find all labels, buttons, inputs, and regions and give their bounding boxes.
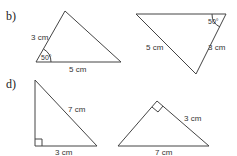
triangles-diagram: b) 3 cm 5 cm 50° 5 cm 3 cm 50° d) 7 cm 3… [0,0,237,156]
side-label-3cm: 3 cm [208,43,226,52]
side-label-5cm: 5 cm [146,43,164,52]
triangle-b1: 3 cm 5 cm 50° [31,11,121,74]
side-label-7cm: 7 cm [155,148,173,156]
side-label-3cm: 3 cm [184,114,202,123]
angle-label-50: 50° [208,18,219,25]
triangle-d2: 3 cm 7 cm [118,101,209,156]
part-d-label: d) [6,77,16,91]
triangle-d1: 7 cm 3 cm [35,80,97,156]
side-label-3cm: 3 cm [55,148,73,156]
right-angle-marker [35,139,42,146]
side-label-5cm: 5 cm [69,65,87,74]
triangle-b2: 5 cm 3 cm 50° [136,14,226,74]
side-label-3cm: 3 cm [31,33,49,42]
side-label-7cm: 7 cm [68,105,86,114]
part-b-label: b) [6,9,16,23]
right-angle-marker [152,106,163,112]
angle-label-50: 50° [41,54,52,61]
